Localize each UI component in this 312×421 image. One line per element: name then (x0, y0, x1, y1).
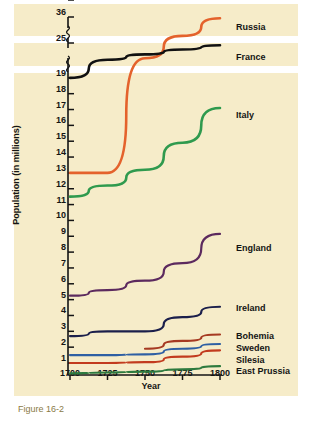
series-line-russia (70, 18, 220, 173)
figure-population-growth: 36252019181716151413121110987654321 1700… (0, 0, 312, 421)
series-line-bohemia (145, 334, 220, 348)
series-line-east-prussia (70, 366, 220, 373)
chart-vector-layer (0, 0, 312, 421)
series-line-france (70, 45, 220, 78)
series-line-ireland (70, 307, 220, 336)
series-line-england (70, 234, 220, 296)
series-line-silesia (70, 350, 220, 363)
series-line-italy (70, 108, 220, 197)
